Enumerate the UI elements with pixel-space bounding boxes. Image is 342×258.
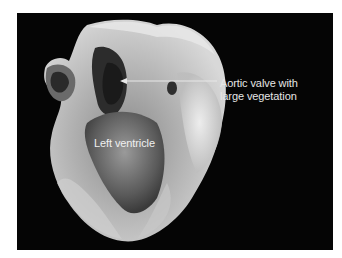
left-ventricle-label: Left ventricle <box>94 137 155 150</box>
aortic-valve-label: Aortic valve with large vegetation <box>220 77 298 103</box>
aortic-label-line1: Aortic valve with <box>220 77 298 90</box>
heart-specimen-image <box>17 13 333 250</box>
aortic-label-line2: large vegetation <box>220 90 298 103</box>
specimen-photo-frame: Aortic valve with large vegetation Left … <box>17 13 333 250</box>
